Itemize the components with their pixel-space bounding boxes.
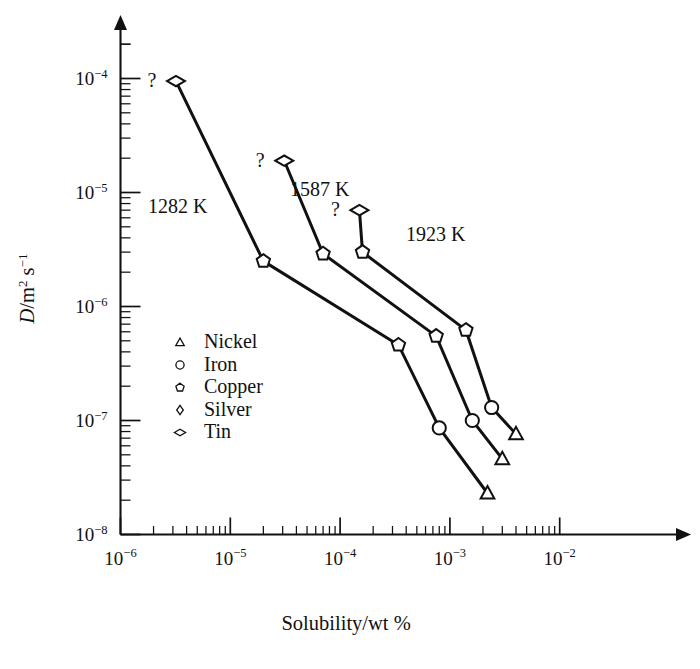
y-tick-label-0: 10−4 [75,67,108,90]
legend-marker-copper [176,383,184,391]
x-tick-label-2: 10−4 [324,546,357,569]
y-axis-arrowhead [114,15,127,30]
legend-marker-tin [174,429,185,435]
x-tick-label-4: 10−2 [544,546,576,569]
figure-container: 10−610−510−410−310−210−410−510−610−710−8… [0,0,700,669]
legend-label-iron: Iron [204,353,237,375]
series-label-1587-k: 1587 K [290,178,350,200]
y-tick-label-1: 10−5 [75,181,107,204]
legend-label-silver: Silver [204,398,252,420]
axes [114,15,691,541]
series-label-1282-k: 1282 K [148,195,208,217]
legend-label-nickel: Nickel [204,330,258,352]
legend-marker-silver [177,405,184,414]
datapoint-1923-k-copper-1 [356,245,369,258]
x-axis-arrowhead [676,528,691,541]
legend-marker-nickel [176,338,184,346]
y-tick-label-3: 10−7 [75,409,107,432]
annotation-question-mark-2: ? [331,198,340,220]
x-tick-label-0: 10−6 [104,546,136,569]
x-axis-title: Solubility/wt % [281,612,410,635]
y-tick-label-4: 10−8 [75,523,107,546]
legend-label-copper: Copper [204,375,263,398]
y-tick-label-2: 10−6 [75,295,107,318]
y-axis-title: D/m2 s−1 [15,254,38,325]
legend: NickelIronCopperSilverTin [174,330,263,442]
legend-label-tin: Tin [204,420,231,442]
datapoint-1923-k-tin-0 [350,205,368,215]
datapoint-1587-k-copper-1 [316,247,329,260]
x-tick-label-3: 10−3 [434,546,466,569]
diffusivity-solubility-chart: 10−610−510−410−310−210−410−510−610−710−8… [0,0,700,669]
datapoint-1282-k-iron-3 [433,421,446,434]
datapoint-1923-k-iron-3 [485,401,498,414]
annotation-question-mark-0: ? [148,69,157,91]
legend-marker-iron [176,361,184,369]
x-tick-label-1: 10−5 [214,546,246,569]
axis-tick-labels: 10−610−510−410−310−210−410−510−610−710−8 [75,67,576,569]
datapoint-1282-k-tin-0 [167,76,185,86]
axis-ticks [121,44,560,534]
series-label-1923-k: 1923 K [406,223,466,245]
datapoint-1587-k-iron-3 [466,414,479,427]
datapoint-1587-k-tin-0 [275,156,293,166]
datapoint-1282-k-copper-2 [392,338,405,351]
datapoint-1282-k-copper-1 [257,254,270,267]
annotation-question-mark-1: ? [256,149,265,171]
